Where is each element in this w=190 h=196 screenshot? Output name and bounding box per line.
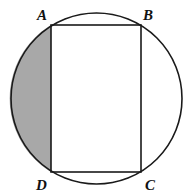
diagram-canvas: A B C D <box>0 0 190 196</box>
vertex-label-b: B <box>142 7 153 23</box>
vertex-label-a: A <box>36 7 47 23</box>
vertex-label-c: C <box>145 177 156 193</box>
vertex-label-d: D <box>35 177 47 193</box>
rectangle-abcd <box>51 25 141 172</box>
shaded-circular-segment <box>10 25 51 172</box>
